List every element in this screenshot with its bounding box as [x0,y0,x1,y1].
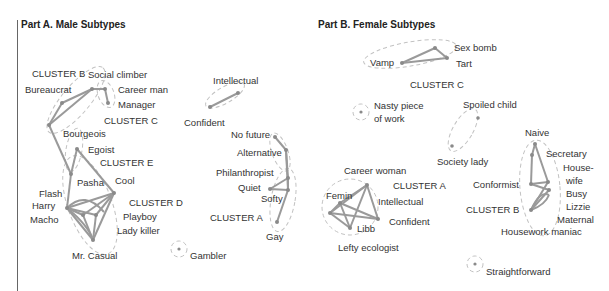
male-cluster-d-label: CLUSTER D [129,197,183,208]
female-label-conformist: Conformist [473,179,519,190]
male-label-softy: Softy [261,193,283,204]
female-label-sex-bomb: Sex bomb [454,42,497,53]
male-label-intellectual: Intellectual [213,75,258,86]
female-label-wife: wife [566,175,583,186]
male-label-mr-casual: Mr. Casual [72,250,117,261]
male-label-confident: Confident [184,117,225,128]
female-label-straightforward: Straightforward [486,266,550,277]
male-label-bureaucrat: Bureaucrat [25,84,71,95]
subtype-cluster-diagram: Part A. Male Subtypes CLUSTER B Social c… [0,0,609,291]
female-label-busy: Busy [566,188,587,199]
female-label-femin: Femin [326,190,352,201]
female-label-vamp: Vamp [370,57,394,68]
male-label-playboy: Playboy [123,211,157,222]
female-label-maternal: Maternal [557,214,594,225]
male-label-egoist: Egoist [88,144,114,155]
male-label-no-future: No future [231,129,270,140]
male-label-flash: Flash [39,188,62,199]
male-label-macho: Macho [30,214,59,225]
male-label-bourgeois: Bourgeois [63,128,106,139]
male-label-career-man: Career man [118,84,168,95]
male-label-social-climber: Social climber [88,69,147,80]
female-label-libb: Libb [357,223,375,234]
female-label-house: House- [563,162,594,173]
male-label-gay: Gay [266,231,283,242]
female-label-lefty-ecologist: Lefty ecologist [338,242,399,253]
female-label-intellectual: Intellectual [378,196,423,207]
female-label-housework-maniac: Housework maniac [501,226,582,237]
female-label-confident: Confident [389,216,430,227]
male-cluster-a-label: CLUSTER A [210,212,263,223]
female-cluster-c-label: CLUSTER C [410,79,464,90]
female-label-tart: Tart [456,58,472,69]
female-label-nasty-piece: Nasty piece [374,100,424,111]
male-label-cool: Cool [115,175,135,186]
female-label-secretary: Secretary [546,148,587,159]
male-cluster-b-label: CLUSTER B [32,68,85,79]
male-label-lady-killer: Lady killer [117,225,160,236]
female-label-career-woman: Career woman [344,165,406,176]
male-label-manager: Manager [118,99,156,110]
male-label-gambler: Gambler [190,250,226,261]
male-label-quiet: Quiet [238,182,261,193]
male-part-title: Part A. Male Subtypes [21,19,126,30]
male-label-alternative: Alternative [237,147,282,158]
female-label-of-work: of work [374,113,405,124]
female-label-society-lady: Society lady [437,156,488,167]
female-cluster-b-label: CLUSTER B [466,204,519,215]
female-label-lizzie: Lizzie [566,201,590,212]
female-cluster-a-label: CLUSTER A [393,180,446,191]
male-cluster-c-label: CLUSTER C [104,115,158,126]
female-label-spoiled-child: Spoiled child [463,99,517,110]
male-label-pasha: Pasha [77,177,104,188]
male-cluster-e-label: CLUSTER E [100,157,153,168]
female-part-title: Part B. Female Subtypes [318,19,435,30]
male-label-harry: Harry [32,200,55,211]
female-label-naive: Naive [525,127,549,138]
male-label-philanthropist: Philanthropist [216,167,274,178]
